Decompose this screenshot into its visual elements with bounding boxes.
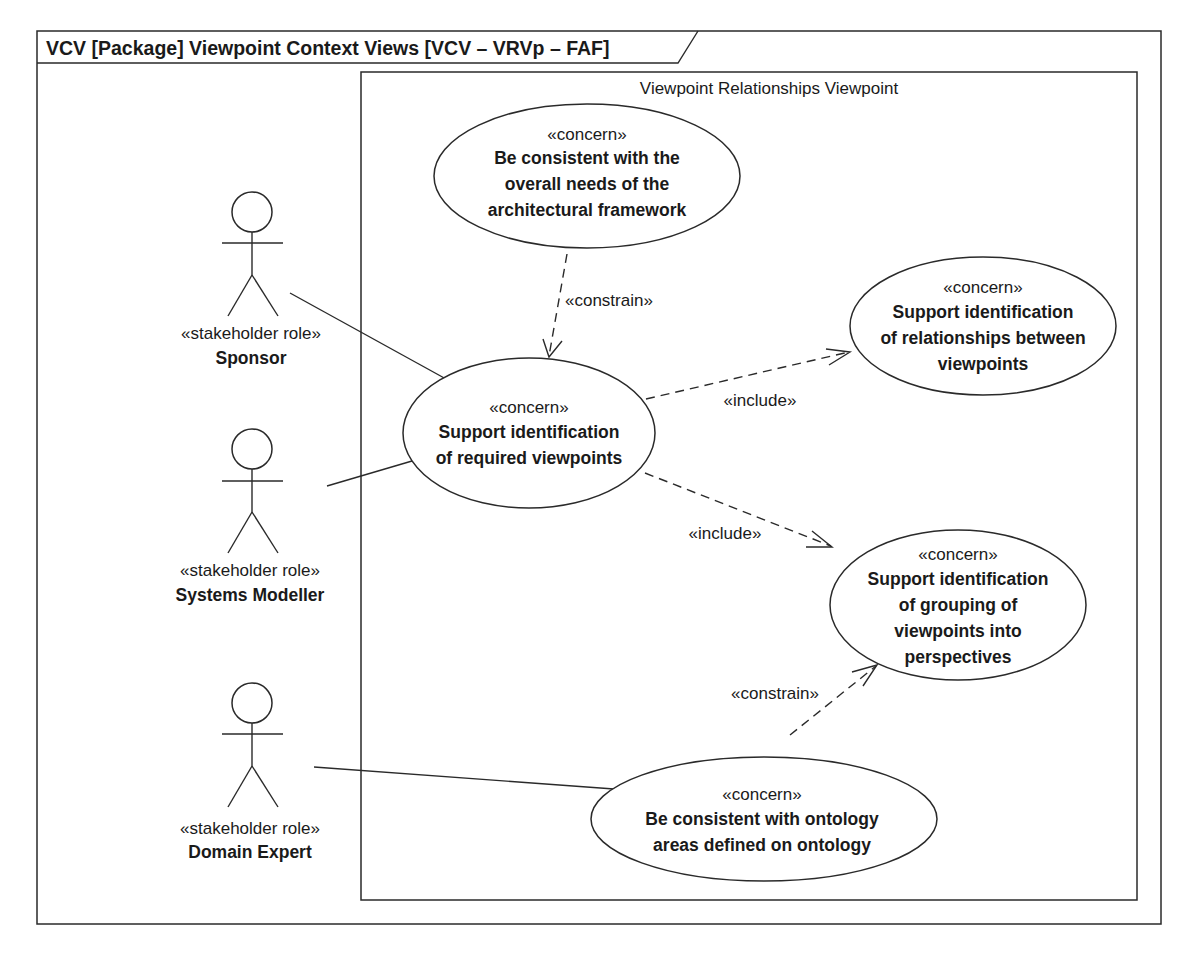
dependency-label: «include» (689, 524, 762, 543)
diagram-canvas: VCV [Package] Viewpoint Context Views [V… (0, 0, 1187, 953)
boundary-title: Viewpoint Relationships Viewpoint (640, 79, 899, 98)
concern-name-line: perspectives (904, 647, 1011, 667)
actor-name: Sponsor (216, 348, 287, 368)
concern-consistent-ontology[interactable]: «concern» Be consistent with ontology ar… (591, 757, 937, 881)
concern-name-line: viewpoints (938, 354, 1029, 374)
concern-name-line: Support identification (893, 302, 1074, 322)
concern-stereotype: «concern» (489, 398, 568, 417)
concern-name-line: of relationships between (880, 328, 1085, 348)
concern-name-line: Be consistent with ontology (645, 809, 879, 829)
concern-stereotype: «concern» (722, 785, 801, 804)
concern-name-line: of required viewpoints (436, 448, 623, 468)
concern-name-line: of grouping of (899, 595, 1018, 615)
concern-consistent-framework[interactable]: «concern» Be consistent with the overall… (434, 104, 740, 248)
concern-relationships-viewpoints[interactable]: «concern» Support identification of rela… (850, 257, 1116, 395)
concern-name-line: viewpoints into (894, 621, 1021, 641)
concern-stereotype: «concern» (547, 125, 626, 144)
concern-name-line: areas defined on ontology (653, 835, 871, 855)
actor-name: Systems Modeller (176, 585, 325, 605)
concern-stereotype: «concern» (918, 545, 997, 564)
concern-required-viewpoints[interactable]: «concern» Support identification of requ… (403, 358, 655, 508)
actor-name: Domain Expert (188, 842, 312, 862)
dependency-label: «constrain» (565, 291, 653, 310)
actor-stereotype: «stakeholder role» (180, 561, 320, 580)
concern-grouping-perspectives[interactable]: «concern» Support identification of grou… (830, 530, 1086, 680)
concern-name-line: architectural framework (488, 200, 687, 220)
concern-name-line: overall needs of the (505, 174, 670, 194)
concern-name-line: Be consistent with the (494, 148, 680, 168)
actor-stereotype: «stakeholder role» (180, 819, 320, 838)
dependency-label: «include» (724, 391, 797, 410)
concern-name-line: Support identification (868, 569, 1049, 589)
concern-stereotype: «concern» (943, 278, 1022, 297)
dependency-label: «constrain» (731, 684, 819, 703)
frame-title: VCV [Package] Viewpoint Context Views [V… (46, 37, 609, 59)
actor-stereotype: «stakeholder role» (181, 324, 321, 343)
concern-name-line: Support identification (439, 422, 620, 442)
